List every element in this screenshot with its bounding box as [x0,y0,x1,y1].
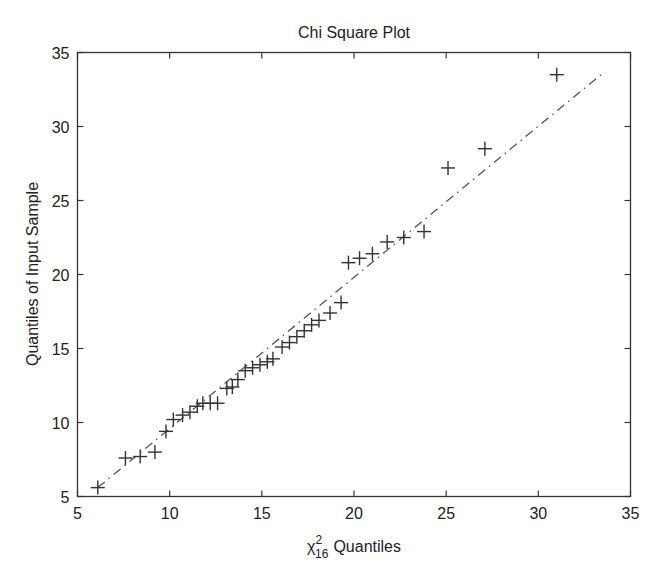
y-tick-label: 15 [52,341,70,358]
x-tick-label: 10 [161,505,179,522]
y-tick-label: 10 [52,415,70,432]
x-tick-label: 30 [529,505,547,522]
y-tick-label: 30 [52,119,70,136]
y-tick-label: 25 [52,193,70,210]
y-axis-label: Quantiles of Input Sample [24,182,41,366]
x-tick-label: 20 [345,505,363,522]
x-tick-label: 35 [622,505,640,522]
y-tick-label: 20 [52,267,70,284]
chart-title: Chi Square Plot [298,24,411,41]
x-tick-label: 25 [437,505,455,522]
y-tick-label: 35 [52,45,70,62]
y-tick-label: 5 [61,489,70,506]
x-label-subscript: 16 [315,547,329,561]
x-tick-label: 15 [253,505,271,522]
x-tick-label: 5 [73,505,82,522]
chi-square-plot: Chi Square Plot 5101520253035 5101520253… [0,0,662,578]
x-label-text: Quantiles [333,538,401,555]
x-label-superscript: 2 [315,533,322,547]
x-axis-label: χ216Quantiles [307,533,401,561]
